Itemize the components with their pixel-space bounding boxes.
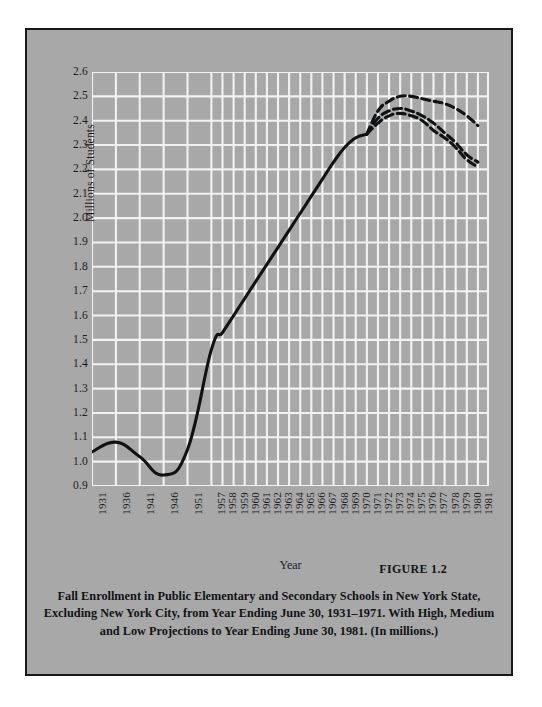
y-axis-tick-label: 1.2 — [50, 407, 88, 419]
x-axis-tick-label: 1978 — [449, 492, 461, 515]
x-axis-tick-label: 1941 — [144, 492, 156, 515]
y-axis-tick-labels: 2.62.52.42.32.22.12.01.91.81.71.61.51.41… — [50, 72, 88, 486]
plot-container: 2.62.52.42.32.22.12.01.91.81.71.61.51.41… — [92, 72, 489, 486]
x-axis-tick-label: 1969 — [349, 492, 361, 515]
y-axis-tick-label: 1.6 — [50, 310, 88, 322]
y-axis-tick-label: 1.5 — [50, 334, 88, 346]
x-axis-tick-label: 1946 — [168, 492, 180, 515]
figure-number-label: FIGURE 1.2 — [27, 562, 447, 577]
y-axis-title: Millions of Students — [84, 124, 96, 222]
y-axis-tick-label: 2.4 — [50, 115, 88, 127]
x-axis-tick-label: 1958 — [226, 492, 238, 515]
y-axis-tick-label: 2.3 — [50, 139, 88, 151]
x-axis-tick-label: 1980 — [471, 492, 483, 515]
caption-line: Excluding New York City, from Year Endin… — [43, 605, 495, 622]
y-axis-tick-label: 2.6 — [50, 66, 88, 78]
caption-line: Fall Enrollment in Public Elementary and… — [43, 588, 495, 605]
x-axis-tick-label: 1961 — [260, 492, 272, 515]
y-axis-tick-label: 1.3 — [50, 383, 88, 395]
x-axis-tick-label: 1970 — [360, 492, 372, 515]
y-axis-tick-label: 1.1 — [50, 431, 88, 443]
y-axis-tick-label: 2.2 — [50, 163, 88, 175]
plot-area — [92, 72, 489, 486]
y-axis-tick-label: 1.8 — [50, 261, 88, 273]
y-axis-tick-label: 1.4 — [50, 358, 88, 370]
y-axis-tick-label: 1.7 — [50, 285, 88, 297]
caption-line: and Low Projections to Year Ending June … — [43, 623, 495, 640]
x-axis-tick-label: 1977 — [437, 492, 449, 515]
figure-caption: Fall Enrollment in Public Elementary and… — [43, 588, 495, 640]
y-axis-tick-label: 1.0 — [50, 456, 88, 468]
y-axis-tick-label: 0.9 — [50, 480, 88, 492]
y-axis-tick-label: 2.0 — [50, 212, 88, 224]
x-axis-tick-label: 1931 — [96, 492, 108, 515]
series-lines — [92, 72, 489, 486]
x-axis-tick-label: 1967 — [326, 492, 338, 515]
figure-frame: 2.62.52.42.32.22.12.01.91.81.71.61.51.41… — [25, 28, 513, 676]
y-axis-tick-label: 2.5 — [50, 90, 88, 102]
x-axis-tick-label: 1959 — [238, 492, 250, 515]
y-axis-tick-label: 2.1 — [50, 188, 88, 200]
x-axis-tick-label: 1979 — [460, 492, 472, 515]
x-axis-tick-label: 1968 — [338, 492, 350, 515]
x-axis-tick-label: 1936 — [120, 492, 132, 515]
x-axis-tick-label: 1960 — [249, 492, 261, 515]
y-axis-tick-label: 1.9 — [50, 236, 88, 248]
x-axis-tick-label: 1981 — [482, 492, 494, 515]
x-axis-tick-labels: 1931193619411946195119571958195919601961… — [92, 486, 489, 548]
x-axis-tick-label: 1951 — [192, 492, 204, 515]
